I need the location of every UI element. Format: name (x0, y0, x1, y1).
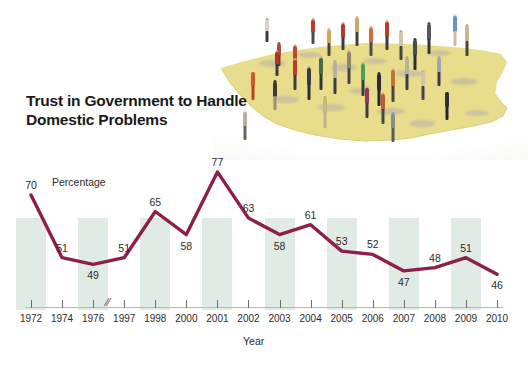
x-tick-label: 2002 (231, 313, 265, 324)
series-label: Percentage (52, 176, 106, 188)
data-point-label: 53 (325, 235, 359, 247)
figurine (363, 86, 371, 118)
chart-title: Trust in Government to Handle Domestic P… (26, 92, 256, 129)
x-axis-title: Year (243, 335, 264, 347)
x-tick-label: 2003 (263, 313, 297, 324)
figurine (309, 18, 317, 44)
figurine (325, 28, 333, 56)
x-tick (342, 300, 343, 308)
figurine (411, 38, 419, 70)
figurine (425, 22, 433, 54)
x-tick (373, 300, 374, 308)
figurine (367, 26, 375, 56)
figurine (331, 60, 339, 94)
x-tick (31, 300, 32, 308)
data-point-label: 51 (107, 242, 141, 254)
figurine (443, 90, 451, 120)
figurine (353, 16, 361, 46)
x-tick-label: 2008 (418, 313, 452, 324)
x-tick (217, 300, 218, 308)
figurine (463, 24, 471, 56)
x-tick (248, 300, 249, 308)
data-point-label: 70 (14, 179, 48, 191)
x-tick (466, 300, 467, 308)
figurine (383, 20, 391, 50)
x-tick (404, 300, 405, 308)
figurine (389, 68, 397, 102)
figurine (263, 18, 271, 42)
x-tick (435, 300, 436, 308)
data-point-label: 47 (387, 276, 421, 288)
data-point-label: 51 (449, 242, 483, 254)
x-tick-label: 1997 (107, 313, 141, 324)
figurine (435, 56, 443, 86)
x-tick-label: 2006 (356, 313, 390, 324)
x-tick (186, 300, 187, 308)
x-tick-label: 1976 (76, 313, 110, 324)
x-tick (62, 300, 63, 308)
trend-line (0, 150, 528, 310)
figurine (403, 56, 411, 90)
x-tick-label: 1972 (14, 313, 48, 324)
x-tick-label: 2010 (480, 313, 514, 324)
x-tick (93, 300, 94, 308)
x-tick-label: 2004 (294, 313, 328, 324)
x-tick-label: 2001 (200, 313, 234, 324)
plot-region: 70514951655877635861535247485146 // (0, 150, 528, 310)
figure-shadows (213, 0, 528, 160)
figurine (451, 14, 459, 46)
photo-usmap-crowd (213, 0, 528, 160)
x-tick-label: 2000 (169, 313, 203, 324)
data-point-label: 46 (480, 279, 514, 291)
data-point-label: 77 (200, 156, 234, 168)
figurine (379, 92, 387, 124)
data-point-label: 58 (263, 240, 297, 252)
chart-area: 70514951655877635861535247485146 // 1972… (0, 150, 528, 365)
x-axis-line (25, 307, 503, 308)
figurine (271, 80, 279, 110)
data-point-label: 51 (45, 242, 79, 254)
x-tick (280, 300, 281, 308)
data-point-label: 48 (418, 252, 452, 264)
data-point-label: 49 (76, 269, 110, 281)
x-tick (155, 300, 156, 308)
infographic-root: Trust in Government to Handle Domestic P… (0, 0, 528, 365)
data-point-label: 52 (356, 238, 390, 250)
x-tick-label: 1974 (45, 313, 79, 324)
figurine (389, 112, 397, 142)
x-tick (311, 300, 312, 308)
x-tick-label: 1998 (138, 313, 172, 324)
figurine (321, 96, 329, 128)
x-tick (124, 300, 125, 308)
x-tick-label: 2005 (325, 313, 359, 324)
x-tick (497, 300, 498, 308)
x-tick-label: 2007 (387, 313, 421, 324)
figurine (273, 50, 281, 76)
data-point-label: 58 (169, 240, 203, 252)
figurine (291, 58, 299, 90)
data-point-label: 61 (294, 209, 328, 221)
data-point-label: 63 (231, 202, 265, 214)
figurine (305, 66, 313, 100)
figurine (345, 50, 353, 84)
data-point-label: 65 (138, 196, 172, 208)
figurine (317, 56, 325, 90)
figurine (339, 22, 347, 50)
figurine (419, 70, 427, 100)
x-tick-label: 2009 (449, 313, 483, 324)
